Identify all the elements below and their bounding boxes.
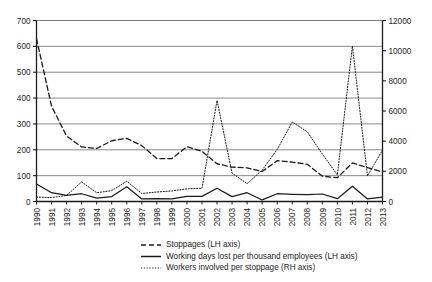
x-axis-tick-label: 1991 (48, 208, 57, 227)
x-axis-tick-label: 2011 (349, 208, 358, 226)
x-axis-tick-label: 1994 (93, 208, 102, 227)
x-axis-tick-label: 1992 (63, 208, 72, 227)
x-axis-tick-label: 2012 (364, 208, 373, 227)
right-axis-tick-label: 8000 (389, 77, 408, 86)
x-axis-tick-label: 2008 (303, 208, 312, 227)
x-axis-tick-label: 1996 (123, 208, 132, 227)
x-axis-tick-label: 2004 (243, 208, 252, 227)
right-axis-tick-label: 10000 (389, 47, 412, 56)
x-axis-tick-label: 2002 (213, 208, 222, 227)
x-axis-tick-label: 1998 (153, 208, 162, 227)
x-axis-tick-label: 1999 (168, 208, 177, 227)
right-axis-tick-label: 0 (389, 198, 394, 207)
right-axis-tick-label: 2000 (389, 167, 408, 176)
left-axis-tick-label: 600 (17, 42, 31, 51)
x-axis-tick-label: 2000 (183, 208, 192, 227)
x-axis-tick-label: 2003 (228, 208, 237, 227)
left-axis-tick-label: 300 (17, 120, 31, 129)
x-axis-tick-label: 2001 (198, 208, 207, 227)
x-axis-tick-label: 2006 (273, 208, 282, 227)
right-axis-tick-label: 6000 (389, 107, 408, 116)
line-chart: 0100200300400500600700 02000400060008000… (0, 0, 432, 282)
left-axis-tick-label: 200 (17, 146, 31, 155)
x-axis-tick-label: 1995 (108, 208, 117, 227)
left-axis-tick-label: 500 (17, 68, 31, 77)
x-axis-tick-label: 2007 (288, 208, 297, 227)
x-axis-tick-label: 2009 (319, 208, 328, 227)
legend-label-3: Workers involved per stoppage (RH axis) (166, 263, 315, 272)
x-axis-tick-label: 1997 (138, 208, 147, 227)
left-axis-tick-label: 400 (17, 94, 31, 103)
right-axis-tick-label: 12000 (389, 17, 412, 26)
x-axis-tick-label: 1990 (33, 208, 42, 227)
left-axis-tick-label: 700 (17, 17, 31, 26)
x-axis-tick-label: 2013 (379, 208, 388, 227)
chart-container: 0100200300400500600700 02000400060008000… (0, 0, 432, 282)
legend-label-2: Working days lost per thousand employees… (166, 252, 358, 261)
left-axis-tick-label: 0 (26, 198, 31, 207)
right-axis-tick-label: 4000 (389, 137, 408, 146)
legend-label-1: Stoppages (LH axis) (166, 240, 240, 249)
left-axis-tick-label: 100 (17, 172, 31, 181)
x-axis-tick-label: 2005 (258, 208, 267, 227)
x-axis-tick-label: 1993 (78, 208, 87, 227)
x-axis-tick-label: 2010 (334, 208, 343, 227)
